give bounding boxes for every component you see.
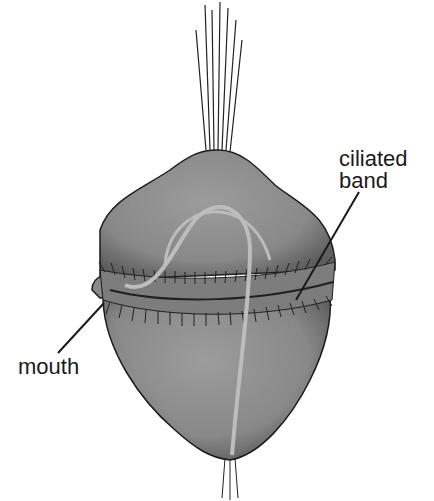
label-ciliated-band: ciliated band <box>339 148 407 192</box>
label-mouth: mouth <box>18 356 79 378</box>
label-ciliated-band-line2: band <box>339 170 407 192</box>
apical-tuft <box>196 2 242 152</box>
larva-illustration <box>0 0 434 501</box>
label-ciliated-band-line1: ciliated <box>339 148 407 170</box>
posterior-tuft <box>222 458 238 500</box>
mouth-leader <box>58 303 104 353</box>
